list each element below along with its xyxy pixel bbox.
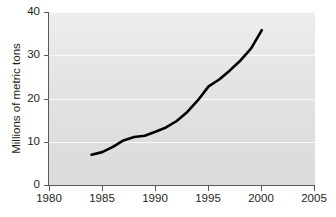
data-series-layer [0, 0, 336, 217]
line-chart: 40 30 20 10 0 1980 1985 1990 1995 2000 2… [0, 0, 336, 217]
series-line-millions-of-metric-tons [92, 30, 262, 155]
